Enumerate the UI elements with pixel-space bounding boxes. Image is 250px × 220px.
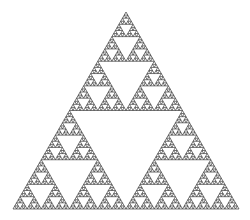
triangle-outlines (13, 12, 239, 209)
sierpinski-figure: Sierpinski triangle (0, 0, 250, 220)
sierpinski-triangle: Sierpinski triangle (0, 0, 250, 220)
fractal-triangles (13, 12, 239, 209)
